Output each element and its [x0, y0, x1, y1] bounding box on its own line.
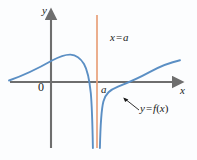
curve-equals-sign: =: [145, 102, 153, 114]
graph-canvas: [0, 0, 197, 160]
x-axis-label: x: [180, 85, 185, 96]
origin-label: 0: [38, 81, 44, 93]
curve-equation-label: y=f(x): [140, 103, 168, 114]
asymptote-rhs: a: [123, 31, 129, 43]
x-tick-label-a: a: [101, 84, 107, 95]
curve-paren-close: ): [165, 102, 169, 114]
y-axis-label: y: [42, 5, 47, 16]
asymptote-equals-sign: =: [115, 31, 123, 43]
function-graph-figure: y x 0 a x=a y=f(x): [0, 0, 197, 160]
asymptote-equation-label: x=a: [110, 32, 129, 43]
